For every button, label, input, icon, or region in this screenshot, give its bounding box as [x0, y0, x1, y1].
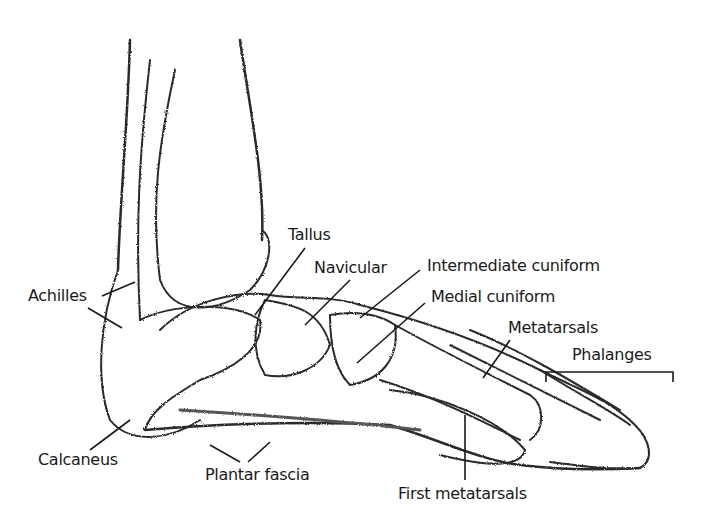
- label-intermediate-cuniform: Intermediate cuniform: [427, 256, 600, 275]
- metatarsal-2: [380, 380, 520, 440]
- plantar-fascia: [180, 410, 420, 430]
- label-first-metatarsals: First metatarsals: [398, 484, 527, 503]
- sole: [145, 423, 640, 469]
- label-tallus: Tallus: [288, 225, 331, 244]
- toes: [540, 370, 649, 469]
- label-metatarsals: Metatarsals: [508, 318, 598, 337]
- tibia-outline: [118, 40, 130, 270]
- metatarsal-1: [395, 325, 541, 440]
- label-medial-cuniform: Medial cuniform: [431, 287, 555, 306]
- cuneiform: [330, 313, 396, 385]
- tibia-front: [240, 40, 262, 240]
- leader-lines: [88, 248, 673, 480]
- label-phalanges: Phalanges: [572, 345, 652, 364]
- heel-outline: [101, 270, 200, 437]
- label-navicular: Navicular: [314, 258, 387, 277]
- label-achilles: Achilles: [28, 286, 87, 305]
- label-plantar-fascia: Plantar fascia: [205, 465, 309, 484]
- first-metatarsal: [390, 390, 525, 464]
- label-calcaneus: Calcaneus: [38, 450, 118, 469]
- achilles-tendon: [138, 60, 150, 320]
- fibula: [156, 70, 269, 308]
